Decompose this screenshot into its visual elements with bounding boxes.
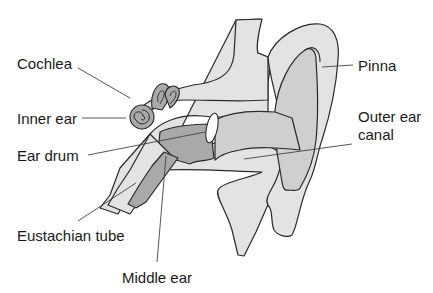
label-ear-drum: Ear drum [17, 147, 79, 164]
label-eustachian-tube: Eustachian tube [17, 227, 125, 244]
label-cochlea: Cochlea [17, 55, 73, 72]
semicircular-canals [152, 84, 180, 110]
label-middle-ear: Middle ear [122, 269, 192, 286]
cochlea-leader [78, 68, 130, 98]
cochlea-shape [130, 105, 154, 129]
label-outer-ear-canal-line1: Outer ear [358, 108, 421, 125]
ear-anatomy-diagram: Cochlea Inner ear Ear drum Eustachian tu… [0, 0, 433, 293]
label-inner-ear: Inner ear [17, 110, 77, 127]
label-outer-ear-canal-line2: canal [358, 126, 394, 143]
label-pinna: Pinna [358, 57, 397, 74]
